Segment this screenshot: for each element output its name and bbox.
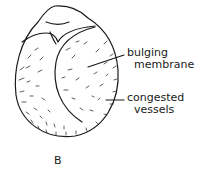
panel-letter: B bbox=[54, 154, 62, 167]
bulging-label-line2: membrane bbox=[134, 59, 194, 71]
outer-outline bbox=[15, 6, 118, 137]
malleus-line bbox=[50, 32, 56, 44]
bulging-leader-line bbox=[88, 55, 124, 67]
congested-label-line2: vessels bbox=[134, 104, 184, 116]
bulging-membrane-outline bbox=[55, 27, 95, 122]
top-small-arc bbox=[46, 22, 69, 24]
congested-vessels-label: congested vessels bbox=[127, 92, 184, 116]
bulging-membrane-label: bulging membrane bbox=[127, 47, 194, 71]
